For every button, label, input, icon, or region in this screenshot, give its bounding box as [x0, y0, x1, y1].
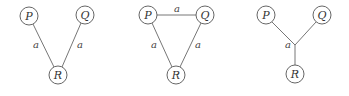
edge-label-q-r: a: [195, 39, 201, 50]
node-r: R: [286, 65, 304, 83]
diagram-triangle: a a a P Q R: [139, 3, 214, 84]
edge-label-p-q: a: [174, 3, 180, 14]
node-label: Q: [200, 9, 209, 22]
edge-label-p-r: a: [151, 39, 157, 50]
node-p: P: [20, 7, 38, 25]
node-q: Q: [196, 6, 214, 24]
node-q: Q: [76, 6, 94, 24]
node-r: R: [49, 66, 67, 84]
node-label: Q: [80, 9, 89, 22]
junction-label: a: [285, 39, 291, 50]
node-label: R: [53, 69, 62, 82]
edge-q-junction: [295, 22, 316, 45]
edge-label-q-r: a: [77, 39, 83, 50]
node-q: Q: [313, 6, 331, 24]
node-label: R: [171, 69, 180, 82]
diagram-y-shape: a P Q R: [257, 6, 331, 83]
node-label: R: [290, 68, 299, 81]
node-label: Q: [317, 9, 326, 22]
edge-p-junction: [272, 22, 295, 45]
node-p: P: [139, 6, 157, 24]
node-label: P: [143, 9, 152, 22]
node-label: P: [261, 9, 270, 22]
node-label: P: [24, 10, 33, 23]
edge-label-p-r: a: [33, 39, 39, 50]
diagram-v-shape: a a P Q R: [20, 6, 94, 84]
node-r: R: [167, 66, 185, 84]
node-p: P: [257, 6, 275, 24]
graph-diagrams: a a P Q R a a a P Q R: [0, 0, 349, 96]
